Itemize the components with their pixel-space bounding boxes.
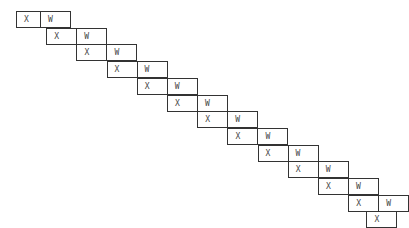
cell-x: X [288, 161, 319, 178]
cell-w: W [227, 111, 258, 128]
cell-w: W [288, 145, 319, 162]
cell-w: W [378, 195, 409, 212]
cell-x: X [227, 128, 258, 145]
cell-x: X [46, 28, 77, 45]
cell-x: X [366, 211, 397, 228]
cell-x: X [348, 195, 379, 212]
cell-x: X [167, 95, 198, 112]
cell-w: W [106, 44, 137, 61]
cell-x: X [107, 61, 138, 78]
cell-w: W [76, 28, 107, 45]
cell-w: W [348, 178, 379, 195]
cell-x: X [16, 11, 41, 28]
cell-x: X [258, 145, 289, 162]
cell-x: X [137, 78, 168, 95]
cell-w: W [40, 11, 71, 28]
cell-w: W [257, 128, 288, 145]
cell-w: W [137, 61, 168, 78]
cell-x: X [76, 44, 107, 61]
cell-x: X [318, 178, 349, 195]
cell-w: W [167, 78, 198, 95]
cell-w: W [318, 161, 349, 178]
cell-w: W [197, 95, 228, 112]
cell-x: X [197, 111, 228, 128]
